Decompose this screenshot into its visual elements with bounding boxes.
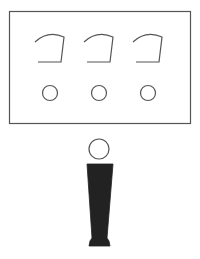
circle-3 <box>141 86 156 101</box>
diagram-canvas <box>0 0 200 259</box>
gauge-3 <box>133 34 162 62</box>
person-figure <box>87 139 113 246</box>
panel-frame <box>10 12 191 124</box>
gauge-2 <box>84 34 113 62</box>
person-head <box>89 139 109 159</box>
control-panel <box>10 12 191 124</box>
circle-2 <box>92 86 107 101</box>
gauge-1 <box>35 34 64 62</box>
person-body <box>87 164 113 246</box>
circle-1 <box>43 86 58 101</box>
